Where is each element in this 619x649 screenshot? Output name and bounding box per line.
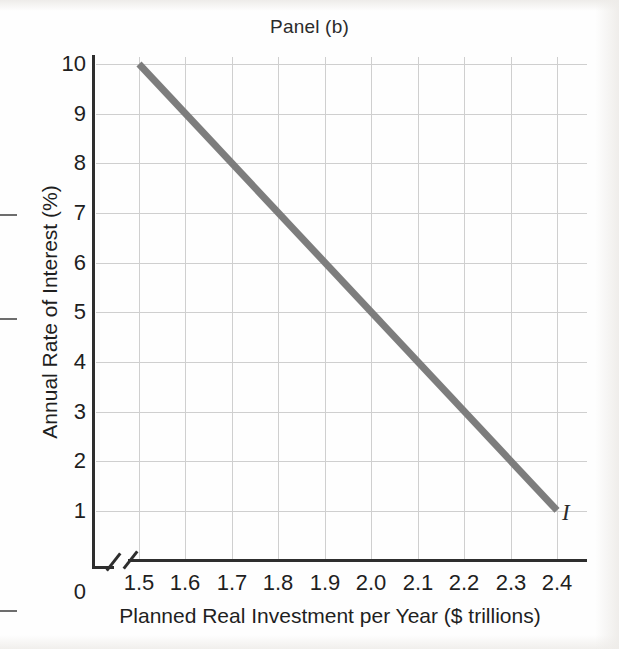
gridline-horizontal (96, 64, 587, 65)
investment-demand-chart: Panel (b) 10 9 8 7 6 5 4 3 (0, 0, 619, 649)
gridline-horizontal (96, 114, 587, 115)
y-origin-label: 0 (26, 579, 86, 605)
x-tick-label: 2.4 (527, 570, 587, 596)
gridline-horizontal (96, 511, 587, 512)
x-axis-label: Planned Real Investment per Year ($ tril… (70, 604, 590, 628)
y-axis-line (92, 55, 95, 568)
gridline-vertical (371, 57, 372, 560)
curve-label-I: I (562, 500, 570, 526)
gridline-horizontal (96, 362, 587, 363)
gridline-vertical (511, 57, 512, 560)
gridline-vertical (464, 57, 465, 560)
gridline-vertical (232, 57, 233, 560)
gridline-horizontal (96, 461, 587, 462)
gridline-vertical (325, 57, 326, 560)
gridline-vertical (139, 57, 140, 560)
gridline-vertical (278, 57, 279, 560)
y-tick-label: 10 (26, 51, 86, 77)
gridline-horizontal (96, 213, 587, 214)
gridline-horizontal (96, 263, 587, 264)
gridline-vertical (557, 57, 558, 560)
gridline-horizontal (96, 312, 587, 313)
gridline-vertical (185, 57, 186, 560)
y-axis-label: Annual Rate of Interest (%) (38, 102, 62, 522)
adjacent-panel-tick (0, 610, 17, 612)
gridline-horizontal (96, 412, 587, 413)
chart-title: Panel (b) (0, 16, 619, 38)
x-axis-line (128, 559, 587, 562)
gridline-horizontal (96, 163, 587, 164)
gridline-vertical (418, 57, 419, 560)
adjacent-panel-tick (0, 214, 17, 216)
adjacent-panel-tick (0, 318, 17, 320)
